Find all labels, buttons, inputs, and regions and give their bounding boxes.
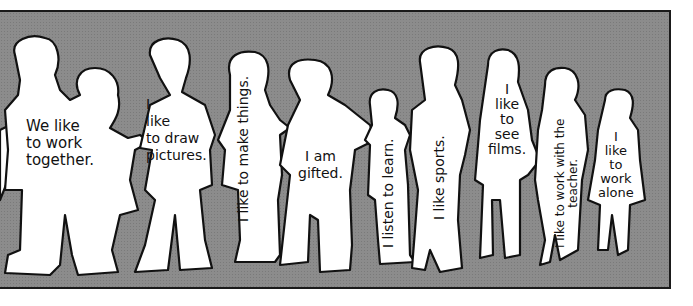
label-work-alone: I like to work alone: [598, 130, 634, 200]
label-see-films: I like to see films.: [488, 82, 526, 157]
label-work-together: We like to work together.: [26, 118, 94, 169]
label-sports: I like sports.: [431, 135, 448, 220]
label-make-things: I like to make things.: [235, 76, 252, 222]
silhouette-make: [218, 52, 290, 262]
label-draw-pictures: I like to draw pictures.: [146, 96, 207, 164]
label-listen-learn: I listen to learn.: [380, 139, 397, 249]
label-gifted: I am gifted.: [298, 148, 343, 182]
label-work-teacher: I like to work with the teacher.: [554, 119, 580, 248]
children-silhouettes: [0, 0, 693, 306]
